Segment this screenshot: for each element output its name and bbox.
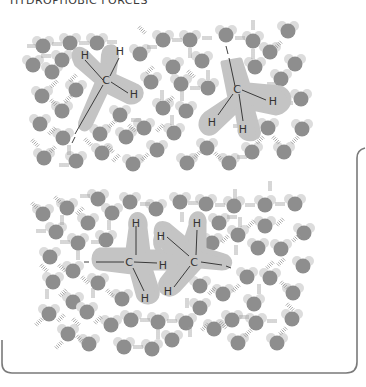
hydrogen-label: H <box>164 285 172 298</box>
carbon-label: C <box>125 256 133 269</box>
carbon-label: C <box>190 256 198 269</box>
hydrogen-label: H <box>116 45 124 58</box>
hydrogen-label: H <box>269 95 277 108</box>
hydrogen-label: H <box>130 88 138 101</box>
hydrogen-label: H <box>81 49 89 62</box>
hydrogen-label: H <box>193 217 201 230</box>
hydrogen-label: H <box>239 123 247 136</box>
carbon-label: C <box>233 83 241 96</box>
hydrogen-label: H <box>208 116 216 129</box>
hydrogen-label: H <box>159 259 167 272</box>
hydrophobic-diagram: C H H H C H H H <box>0 0 366 387</box>
hydrogen-label: H <box>157 230 165 243</box>
hydrogen-label: H <box>141 292 149 305</box>
carbon-label: C <box>102 74 110 87</box>
hydrogen-label: H <box>132 217 140 230</box>
